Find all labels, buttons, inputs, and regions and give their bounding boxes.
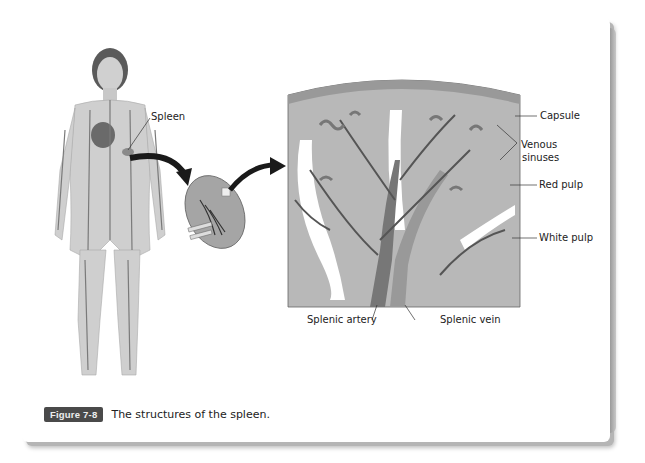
label-splenic-artery: Splenic artery xyxy=(307,314,377,326)
label-spleen: Spleen xyxy=(151,111,185,123)
caption-text: The structures of the spleen. xyxy=(111,408,270,421)
label-venous-sinuses-2: sinuses xyxy=(522,152,559,164)
human-body-illustration xyxy=(55,48,165,375)
label-red-pulp: Red pulp xyxy=(539,179,583,191)
figure-caption: Figure 7-8 The structures of the spleen. xyxy=(44,407,270,422)
figure-number-badge: Figure 7-8 xyxy=(44,407,103,422)
arrow-head-2 xyxy=(270,157,286,175)
label-white-pulp: White pulp xyxy=(539,232,593,244)
label-venous-sinuses-1: Venous xyxy=(521,139,557,151)
label-splenic-vein: Splenic vein xyxy=(440,314,501,326)
label-capsule: Capsule xyxy=(540,110,580,122)
arrow-to-detail xyxy=(230,165,275,190)
spleen-detail-illustration xyxy=(288,80,520,307)
